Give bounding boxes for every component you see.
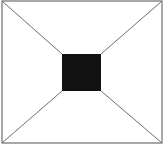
diagram-canvas bbox=[0, 0, 165, 152]
diagonal-bottom-left bbox=[2, 91, 62, 143]
diagonal-top-left bbox=[2, 1, 62, 54]
diagonal-top-right bbox=[101, 1, 162, 54]
diagonal-bottom-right bbox=[101, 91, 162, 143]
inner-black-square bbox=[62, 54, 101, 91]
